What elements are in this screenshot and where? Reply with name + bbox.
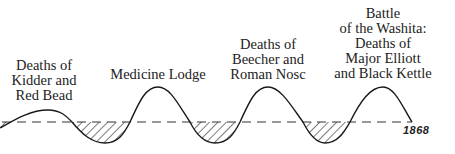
event-label-kidder: Deaths of Kidder and Red Bead bbox=[4, 58, 84, 103]
event-label-beecher: Deaths of Beecher and Roman Nosc bbox=[225, 37, 311, 82]
event-label-medicine-lodge: Medicine Lodge bbox=[104, 67, 212, 82]
year-label: 1868 bbox=[403, 124, 429, 136]
event-label-washita: Battle of the Washita: Deaths of Major E… bbox=[326, 6, 440, 81]
